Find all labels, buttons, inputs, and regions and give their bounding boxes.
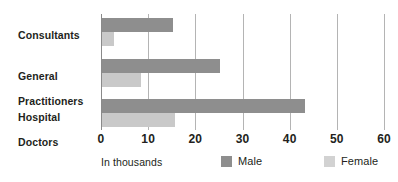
bar-hospital-doctors-female	[102, 113, 175, 127]
legend-label-female: Female	[341, 155, 378, 167]
gridline	[384, 14, 385, 130]
bar-general-practitioners-female	[102, 73, 141, 87]
category-label-hospital-doctors: Hospital Doctors	[18, 98, 92, 161]
category-label-line: Consultants	[18, 29, 80, 41]
legend-swatch-female	[324, 156, 335, 167]
chart-footer: In thousands Male Female	[0, 155, 398, 175]
category-label-consultants: Consultants	[18, 16, 92, 41]
x-tick-label: 0	[98, 132, 105, 146]
x-tick-label: 20	[188, 132, 202, 146]
legend-item-male: Male	[221, 155, 262, 167]
legend-swatch-male	[221, 156, 232, 167]
x-tick-label: 60	[377, 132, 391, 146]
bar-general-practitioners-male	[102, 59, 220, 73]
bar-consultants-female	[102, 32, 114, 46]
plot-area	[101, 14, 384, 130]
gridline	[337, 14, 338, 130]
category-label-line: General	[18, 70, 92, 83]
bar-hospital-doctors-male	[102, 99, 305, 113]
bar-chart: Consultants General Practitioners Hospit…	[0, 0, 398, 182]
x-tick-label: 10	[141, 132, 155, 146]
x-tick-label: 30	[236, 132, 250, 146]
legend-item-female: Female	[324, 155, 378, 167]
bar-consultants-male	[102, 18, 173, 32]
category-label-line: Hospital	[18, 111, 92, 124]
x-tick-label: 50	[330, 132, 344, 146]
legend-label-male: Male	[238, 155, 262, 167]
x-axis-caption: In thousands	[101, 156, 162, 168]
x-tick-label: 40	[283, 132, 297, 146]
x-axis-tick-labels: 0102030405060	[0, 132, 398, 150]
